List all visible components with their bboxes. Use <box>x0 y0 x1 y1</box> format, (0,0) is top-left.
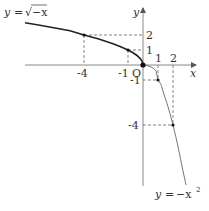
y-axis-label: y <box>132 6 140 19</box>
y-tick-neg4: -4 <box>128 119 139 132</box>
x-tick-1: 1 <box>155 52 162 65</box>
svg-text:=: = <box>165 188 174 201</box>
y-tick-neg1: -1 <box>130 74 141 87</box>
x-tick-neg4: -4 <box>77 67 88 80</box>
svg-text:2: 2 <box>196 186 200 194</box>
x-axis-label: x <box>190 67 197 80</box>
x-tick-2: 2 <box>170 52 177 65</box>
marked-points <box>82 33 174 126</box>
curve-sqrt-neg-x <box>25 23 143 65</box>
x-tick-neg1: -1 <box>118 67 129 80</box>
svg-text:=: = <box>14 6 23 19</box>
function-graph: -4 -1 O 1 2 2 1 -1 -4 x y y = √−x y = −x… <box>0 0 209 211</box>
y-tick-2: 2 <box>146 29 153 42</box>
svg-text:√−x: √−x <box>25 6 48 19</box>
label-sqrt-neg-x: y = √−x <box>3 5 48 19</box>
y-tick-1: 1 <box>146 44 153 57</box>
svg-text:y: y <box>154 188 162 201</box>
svg-text:y: y <box>3 6 11 19</box>
label-neg-x-squared: y = −x 2 <box>154 186 200 201</box>
svg-text:−x: −x <box>176 188 192 201</box>
